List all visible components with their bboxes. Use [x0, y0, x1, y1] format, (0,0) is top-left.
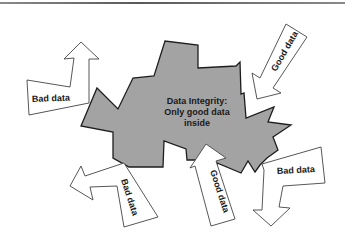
arrow-label: Bad data — [32, 93, 71, 104]
data-integrity-region: Data Integrity: Only good data inside — [81, 41, 291, 178]
center-label-line1: Data Integrity: — [167, 96, 228, 106]
arrow-shape — [27, 42, 99, 115]
center-label-line3: inside — [184, 118, 210, 128]
arrow-label: Bad data — [277, 164, 316, 176]
data-integrity-diagram: Bad data Data Integrity: Only good data … — [0, 0, 345, 241]
arrow-bad-bottom-left: Bad data — [70, 163, 158, 227]
center-label-line2: Only good data — [164, 107, 230, 117]
arrow-good-top-right: Good data — [252, 24, 307, 99]
arrow-shape — [70, 163, 158, 227]
arrow-bad-top-left: Bad data — [27, 42, 99, 115]
